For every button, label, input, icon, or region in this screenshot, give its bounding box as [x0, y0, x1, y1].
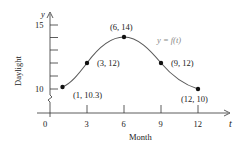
data-point: [60, 85, 64, 89]
data-point: [85, 61, 89, 65]
y-tick-label-15: 15: [35, 20, 44, 30]
y-axis-symbol: y: [40, 9, 45, 19]
data-point: [122, 35, 126, 39]
x-axis-symbol: t: [229, 118, 232, 129]
point-labels: (1, 10.3) (3, 12) (6, 14) (9, 12) (12, 1…: [73, 22, 208, 104]
x-tick-label-0: 0: [43, 119, 47, 129]
data-point: [159, 61, 163, 65]
x-tick-label-6: 6: [122, 119, 126, 129]
point-label: (3, 12): [97, 58, 120, 68]
x-tick-label-3: 3: [85, 119, 89, 129]
x-tick-label-9: 9: [159, 119, 163, 129]
point-label: (6, 14): [110, 22, 133, 32]
axis-break-icon: [48, 95, 52, 102]
y-tick-label-10: 10: [35, 84, 44, 94]
y-axis: y 15 10 Daylight: [13, 9, 58, 117]
daylight-chart: y 15 10 Daylight 0 3 6 9 12 t Month y = …: [0, 0, 243, 150]
point-label: (12, 10): [181, 94, 208, 104]
x-axis-label: Month: [129, 132, 152, 142]
data-point: [196, 87, 200, 91]
x-axis: 0 3 6 9 12 t Month: [37, 105, 232, 142]
point-label: (9, 12): [171, 58, 194, 68]
x-tick-label-12: 12: [194, 119, 203, 129]
y-axis-label: Daylight: [13, 56, 23, 86]
curve-label: y = f(t): [156, 35, 181, 45]
point-label: (1, 10.3): [73, 90, 102, 100]
